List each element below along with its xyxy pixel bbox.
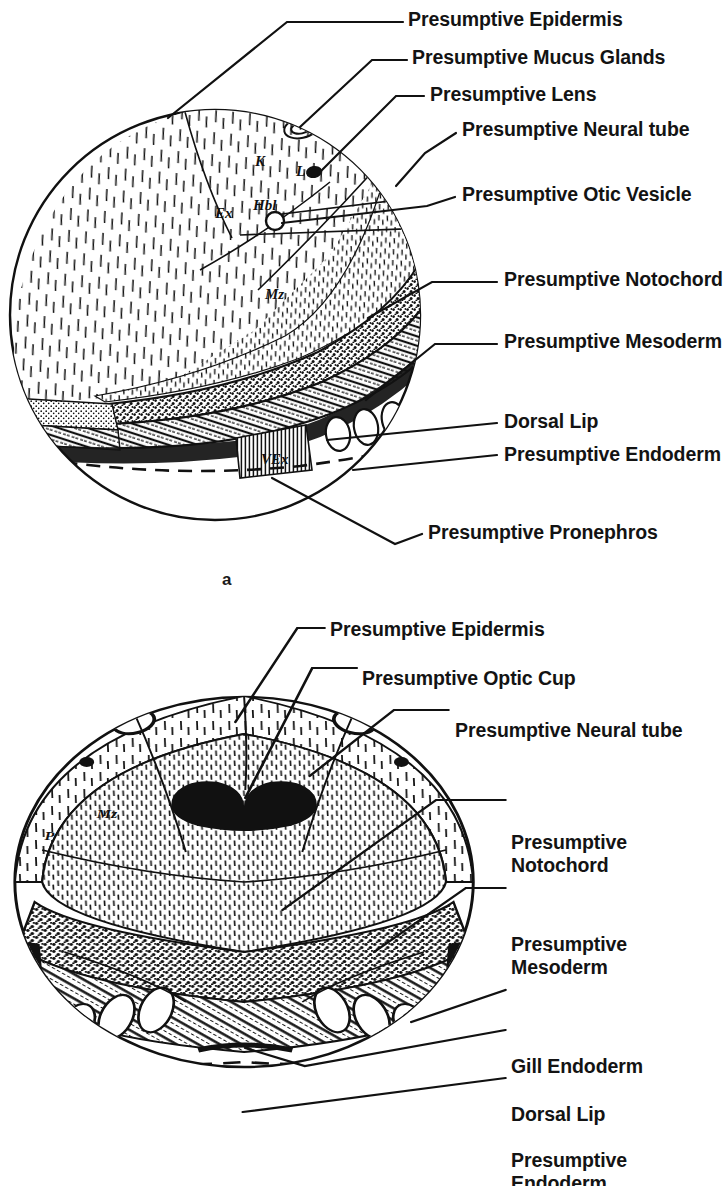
callout-b-neural-tube: Presumptive Neural tube	[455, 719, 682, 742]
leader-neural-a	[396, 133, 456, 186]
callout-b-mesoderm: Presumptive Mesoderm	[511, 933, 726, 978]
region-pronephros-left-b	[22, 1000, 67, 1048]
callout-a-epidermis: Presumptive Epidermis	[408, 8, 623, 31]
callout-a-neural-tube: Presumptive Neural tube	[462, 118, 689, 141]
leader-epidermis-a	[168, 22, 403, 118]
mesoderm-dark-edge-left-b	[2, 938, 44, 1000]
mesoderm-dark-edge-right-b	[444, 938, 486, 1000]
mark-hbl-a: Hbl	[252, 197, 277, 213]
callout-a-lens: Presumptive Lens	[430, 83, 596, 106]
callout-b-notochord: Presumptive Notochord	[511, 831, 726, 877]
mark-vex-a: VEx	[261, 451, 289, 467]
mark-k-a: K	[254, 153, 266, 169]
panel-b: Mz P Presumptive Epidermis Presumptive O…	[0, 600, 726, 1186]
callout-a-pronephros: Presumptive Pronephros	[428, 521, 658, 544]
leader-endoderm-b	[243, 1078, 506, 1112]
mark-l-a: L	[295, 163, 305, 179]
callout-a-notochord: Presumptive Notochord	[504, 268, 723, 291]
fate-map-figure: K L Ex Hbl Mz VEx Presumptive Epidermis …	[0, 0, 726, 1186]
mark-mz-b: Mz	[96, 806, 118, 820]
mark-p-b: P	[45, 828, 56, 842]
callout-b-endoderm: Presumptive Endoderm	[511, 1149, 726, 1186]
region-mesoderm-tip-a	[12, 398, 118, 430]
leader-endoderm-a	[353, 455, 497, 470]
callout-b-gill-endoderm: Gill Endoderm	[511, 1055, 643, 1078]
mark-mz-a: Mz	[264, 286, 284, 302]
callout-b-optic-cup: Presumptive Optic Cup	[362, 667, 576, 690]
panel-a-letter: a	[222, 570, 232, 590]
callout-a-dorsal-lip: Dorsal Lip	[504, 410, 598, 433]
otic-vesicle-mark-a	[266, 212, 284, 230]
callout-a-otic-vesicle: Presumptive Otic Vesicle	[462, 183, 692, 206]
callout-a-endoderm: Presumptive Endoderm	[504, 443, 721, 466]
panel-a-drawing: K L Ex Hbl Mz VEx	[0, 0, 726, 600]
leader-mucus-a	[300, 60, 407, 127]
mark-ex-a: Ex	[214, 205, 233, 221]
callout-b-epidermis: Presumptive Epidermis	[330, 618, 545, 641]
callout-a-mucus-glands: Presumptive Mucus Glands	[412, 46, 665, 69]
callout-a-mesoderm: Presumptive Mesoderm	[504, 330, 722, 353]
panel-a: K L Ex Hbl Mz VEx Presumptive Epidermis …	[0, 0, 726, 600]
callout-b-dorsal-lip: Dorsal Lip	[511, 1103, 605, 1126]
